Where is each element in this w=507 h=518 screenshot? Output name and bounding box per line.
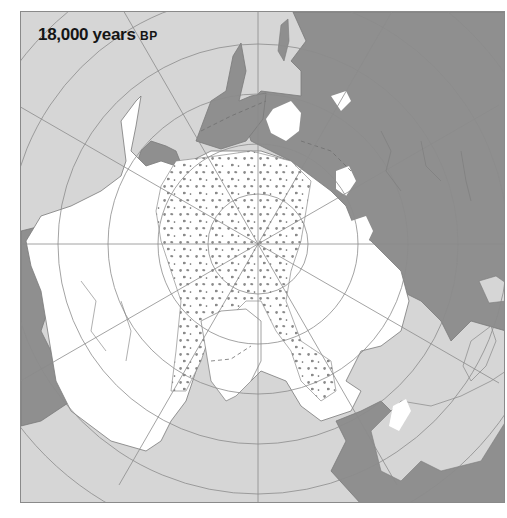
polar-map xyxy=(21,12,505,503)
title-years: 18,000 years xyxy=(38,25,136,44)
map-title: 18,000 years BP xyxy=(38,25,158,45)
title-era: BP xyxy=(140,29,158,43)
map-frame: 18,000 years BP xyxy=(20,11,505,503)
